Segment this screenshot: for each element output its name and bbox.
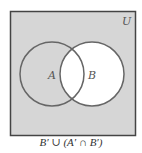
set-b-label: B [87,69,96,82]
caption: B′ ∪ (A′ ∩ B′) [0,136,142,149]
universe-label: U [122,15,132,28]
venn-diagram: U A B [0,0,142,153]
set-a-label: A [47,69,56,82]
